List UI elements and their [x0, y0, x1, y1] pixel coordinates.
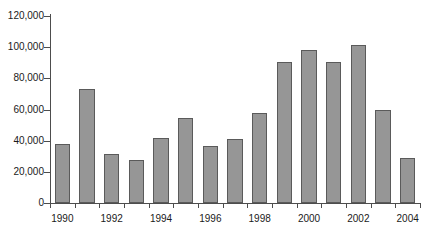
bar [227, 139, 242, 203]
x-axis-tick-label: 2002 [347, 213, 369, 224]
bar [326, 62, 341, 203]
x-axis-tick [371, 203, 372, 208]
bar [351, 45, 366, 203]
bar [178, 118, 193, 203]
x-axis-tick [149, 203, 150, 208]
bar [153, 138, 168, 203]
x-axis-tick-label: 2004 [397, 213, 419, 224]
x-axis-tick [198, 203, 199, 208]
x-axis-tick-label: 1994 [150, 213, 172, 224]
x-axis-tick [420, 203, 421, 208]
x-axis-tick-label: 2000 [298, 213, 320, 224]
x-axis-tick [321, 203, 322, 208]
x-axis-tick [297, 203, 298, 208]
bar [277, 62, 292, 203]
bar [375, 110, 390, 204]
plot-area [0, 0, 426, 244]
x-axis-tick-label: 1998 [249, 213, 271, 224]
x-axis-tick [272, 203, 273, 208]
x-axis-tick [99, 203, 100, 208]
x-axis-tick [75, 203, 76, 208]
x-axis-tick [223, 203, 224, 208]
bar [252, 113, 267, 203]
x-axis-tick-label: 1996 [199, 213, 221, 224]
bar [79, 89, 94, 203]
x-axis-tick [247, 203, 248, 208]
bar [129, 160, 144, 203]
x-axis-tick [124, 203, 125, 208]
x-axis-tick [173, 203, 174, 208]
bar [301, 50, 316, 203]
bar [203, 146, 218, 203]
bar [104, 154, 119, 203]
x-axis-tick [395, 203, 396, 208]
bar [55, 144, 70, 203]
bar-chart: 020,00040,00060,00080,000100,000120,000 … [0, 0, 426, 244]
x-axis-tick-label: 1990 [51, 213, 73, 224]
x-axis-tick-label: 1992 [101, 213, 123, 224]
x-axis-tick [50, 203, 51, 208]
bar [400, 158, 415, 203]
x-axis-tick [346, 203, 347, 208]
